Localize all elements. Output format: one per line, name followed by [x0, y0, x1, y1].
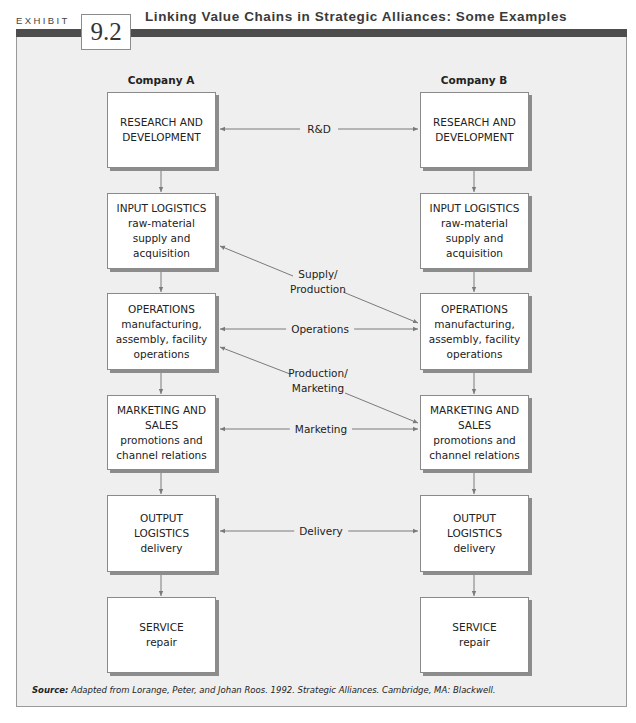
exhibit-number-box: 9.2 [81, 14, 131, 50]
link-label-delivery: Delivery [294, 524, 348, 539]
company-b-input-logistics-box: INPUT LOGISTICS raw-material supply and … [420, 193, 529, 269]
company-a-output-logistics-box: OUTPUT LOGISTICS delivery [107, 495, 216, 572]
box-subtitle: repair [146, 635, 177, 650]
box-title: MARKETING AND SALES [112, 403, 212, 433]
link-label-line: Supply/ [290, 267, 346, 282]
box-title: OPERATIONS [441, 302, 508, 317]
connector-lines [0, 0, 636, 723]
box-title: SERVICE [452, 620, 496, 635]
company-a-operations-box: OPERATIONS manufacturing, assembly, faci… [107, 293, 216, 370]
company-a-research-development-box: RESEARCH AND DEVELOPMENT [107, 92, 216, 168]
company-b-marketing-sales-box: MARKETING AND SALES promotions and chann… [420, 395, 529, 470]
box-title: MARKETING AND SALES [425, 403, 525, 433]
box-subtitle: promotions and channel relations [112, 433, 212, 463]
box-title: RESEARCH AND DEVELOPMENT [430, 115, 520, 145]
link-label-production-marketing: Production/ Marketing [283, 366, 352, 396]
link-label-operations: Operations [286, 322, 354, 337]
box-subtitle: manufacturing, assembly, facility operat… [425, 317, 525, 362]
company-a-marketing-sales-box: MARKETING AND SALES promotions and chann… [107, 395, 216, 470]
box-subtitle: delivery [140, 541, 182, 556]
link-label-rd: R&D [302, 122, 336, 137]
box-subtitle: repair [459, 635, 490, 650]
box-title: SERVICE [139, 620, 183, 635]
box-title: OUTPUT LOGISTICS [122, 511, 202, 541]
company-b-service-box: SERVICE repair [420, 597, 529, 673]
box-title: INPUT LOGISTICS [430, 201, 520, 216]
company-a-input-logistics-box: INPUT LOGISTICS raw-material supply and … [107, 193, 216, 269]
box-title: RESEARCH AND DEVELOPMENT [117, 115, 207, 145]
box-subtitle: raw-material supply and acquisition [435, 216, 515, 261]
link-label-line: Production [290, 282, 346, 297]
company-b-research-development-box: RESEARCH AND DEVELOPMENT [420, 92, 529, 168]
company-a-service-box: SERVICE repair [107, 597, 216, 673]
company-b-operations-box: OPERATIONS manufacturing, assembly, faci… [420, 293, 529, 370]
box-title: INPUT LOGISTICS [117, 201, 207, 216]
link-label-marketing: Marketing [290, 422, 352, 437]
box-subtitle: manufacturing, assembly, facility operat… [112, 317, 212, 362]
box-subtitle: promotions and channel relations [425, 433, 525, 463]
box-subtitle: raw-material supply and acquisition [122, 216, 202, 261]
link-label-line: Marketing [288, 381, 347, 396]
box-subtitle: delivery [453, 541, 495, 556]
box-title: OUTPUT LOGISTICS [435, 511, 515, 541]
link-label-supply-production: Supply/ Production [285, 267, 351, 297]
link-label-line: Production/ [288, 366, 347, 381]
company-b-output-logistics-box: OUTPUT LOGISTICS delivery [420, 495, 529, 572]
box-title: OPERATIONS [128, 302, 195, 317]
